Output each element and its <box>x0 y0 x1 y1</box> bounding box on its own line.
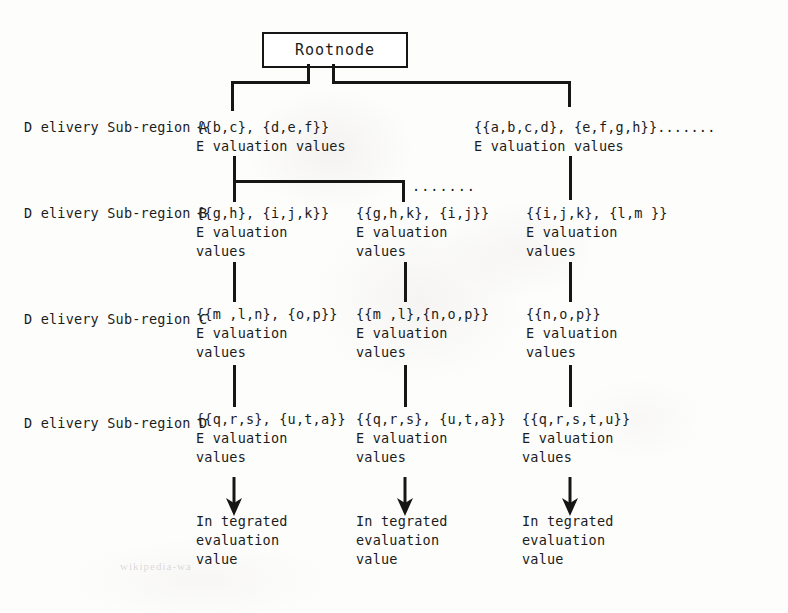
integrated-value-1: In tegrated evaluation value <box>196 512 288 569</box>
integrated-value-3: In tegrated evaluation value <box>522 512 614 569</box>
node-c1-eval-2: values <box>196 343 338 362</box>
node-c2-eval-2: values <box>356 343 489 362</box>
node-c1-eval-1: E valuation <box>196 324 338 343</box>
node-d3-set: {{q,r,s,t,u}} <box>522 410 630 429</box>
node-d3-eval-2: values <box>522 448 630 467</box>
node-b3-set: {{i,j,k}, {l,m }} <box>526 204 668 223</box>
connector-b1-to-c1 <box>233 262 236 302</box>
connector-c3-to-d3 <box>569 365 572 407</box>
row-label-b-line1: D elivery <box>24 205 99 221</box>
connector-root-right-bar <box>332 81 571 84</box>
node-c3-set: {{n,o,p}} <box>526 305 618 324</box>
connector-a1-to-b2 <box>402 180 405 202</box>
connector-a2-to-b3 <box>569 156 572 200</box>
node-a2-set: {{a,b,c,d}, {e,f,g,h}}....... <box>474 118 716 137</box>
connector-root-left-bar <box>231 81 310 84</box>
connector-c2-to-d2 <box>404 365 407 407</box>
root-node-box: Rootnode <box>262 32 408 68</box>
node-a1: {{b,c}, {d,e,f}} E valuation values <box>196 118 346 156</box>
node-a1-set: {{b,c}, {d,e,f}} <box>196 118 346 137</box>
row-label-a-line1: D elivery <box>24 119 99 135</box>
integrated-3-line3: value <box>522 550 614 569</box>
row-label-c-line1: D elivery <box>24 311 99 327</box>
node-b1-eval-1: E valuation <box>196 223 329 242</box>
integrated-1-line3: value <box>196 550 288 569</box>
row-label-b-line2: Sub-region B <box>107 205 207 221</box>
down-arrow-icon-1 <box>225 477 243 517</box>
integrated-2-line3: value <box>356 550 448 569</box>
node-a1-eval: E valuation values <box>196 137 346 156</box>
row-label-sub-region-a: D elivery Sub-region A <box>24 118 207 137</box>
row-label-c-line2: Sub-region C <box>107 311 207 327</box>
row-label-sub-region-b: D elivery Sub-region B <box>24 204 207 223</box>
row-label-sub-region-d: D elivery Sub-region D <box>24 414 207 433</box>
node-b1-set: {{g,h}, {i,j,k}} <box>196 204 329 223</box>
node-d1: {{q,r,s}, {u,t,a}} E valuation values <box>196 410 346 467</box>
node-d1-eval-2: values <box>196 448 346 467</box>
node-d1-eval-1: E valuation <box>196 429 346 448</box>
down-arrow-icon-2 <box>396 477 414 517</box>
connector-c1-to-d1 <box>233 365 236 407</box>
node-c3-eval-1: E valuation <box>526 324 618 343</box>
node-a2: {{a,b,c,d}, {e,f,g,h}}....... E valuatio… <box>474 118 716 156</box>
root-node-label: Rootnode <box>295 41 375 59</box>
integrated-value-2: In tegrated evaluation value <box>356 512 448 569</box>
integrated-2-line2: evaluation <box>356 531 448 550</box>
integrated-1-line1: In tegrated <box>196 512 288 531</box>
row-label-d-line1: D elivery <box>24 415 99 431</box>
connector-a1-stem <box>233 156 236 182</box>
integrated-2-line1: In tegrated <box>356 512 448 531</box>
connector-root-to-a2 <box>568 81 571 107</box>
connector-a1-to-b1 <box>233 180 236 202</box>
integrated-3-line1: In tegrated <box>522 512 614 531</box>
node-d2-eval-1: E valuation <box>356 429 506 448</box>
connector-root-to-a1 <box>231 81 234 111</box>
connector-b3-to-c3 <box>569 262 572 302</box>
node-d2: {{q,r,s}, {u,t,a}} E valuation values <box>356 410 506 467</box>
node-b3-eval-2: values <box>526 242 668 261</box>
diagram-canvas: wikipedia-wa Rootnode D elivery Sub-regi… <box>0 0 788 613</box>
node-d3-eval-1: E valuation <box>522 429 630 448</box>
node-b1: {{g,h}, {i,j,k}} E valuation values <box>196 204 329 261</box>
node-d2-eval-2: values <box>356 448 506 467</box>
node-c1-set: {{m ,l,n}, {o,p}} <box>196 305 338 324</box>
row-label-sub-region-c: D elivery Sub-region C <box>24 310 207 329</box>
node-c1: {{m ,l,n}, {o,p}} E valuation values <box>196 305 338 362</box>
row-label-d-line2: Sub-region D <box>107 415 207 431</box>
node-b3-eval-1: E valuation <box>526 223 668 242</box>
node-d3: {{q,r,s,t,u}} E valuation values <box>522 410 630 467</box>
integrated-1-line2: evaluation <box>196 531 288 550</box>
node-b3: {{i,j,k}, {l,m }} E valuation values <box>526 204 668 261</box>
ellipsis-level-b: ....... <box>412 178 476 194</box>
connector-a1-bar <box>233 180 405 183</box>
node-b2-eval-2: values <box>356 242 489 261</box>
connector-b2-to-c2 <box>404 262 407 302</box>
down-arrow-icon-3 <box>561 477 579 517</box>
node-c2: {{m ,l},{n,o,p}} E valuation values <box>356 305 489 362</box>
node-b2: {{g,h,k}, {i,j}} E valuation values <box>356 204 489 261</box>
node-c3-eval-2: values <box>526 343 618 362</box>
row-label-a-line2: Sub-region A <box>107 119 207 135</box>
node-a2-eval: E valuation values <box>474 137 716 156</box>
node-c3: {{n,o,p}} E valuation values <box>526 305 618 362</box>
node-b1-eval-2: values <box>196 242 329 261</box>
node-b2-set: {{g,h,k}, {i,j}} <box>356 204 489 223</box>
node-d1-set: {{q,r,s}, {u,t,a}} <box>196 410 346 429</box>
node-d2-set: {{q,r,s}, {u,t,a}} <box>356 410 506 429</box>
node-c2-eval-1: E valuation <box>356 324 489 343</box>
integrated-3-line2: evaluation <box>522 531 614 550</box>
node-b2-eval-1: E valuation <box>356 223 489 242</box>
scan-watermark: wikipedia-wa <box>120 560 192 572</box>
node-c2-set: {{m ,l},{n,o,p}} <box>356 305 489 324</box>
